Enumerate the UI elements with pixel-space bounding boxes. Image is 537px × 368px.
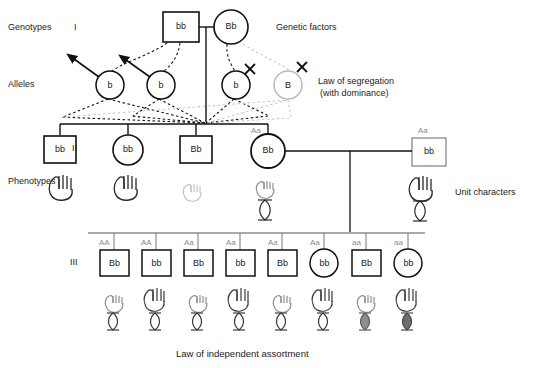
pedigree-diagram: Genotypes Alleles Phenotypes I II III Ge…	[0, 0, 537, 368]
hand-icon	[396, 288, 416, 311]
gamete-to-gen2-dotted	[60, 99, 291, 123]
hand-icon	[273, 295, 291, 312]
row-label-genotypes: Genotypes	[8, 22, 52, 33]
allele-b-2-label: b	[156, 80, 166, 91]
eye-icon	[258, 200, 272, 220]
hand-icon	[228, 288, 248, 311]
gen3-child-4-upper-genotype: Aa	[226, 237, 236, 248]
caption-law-of-independent-assortment: Law of independent assortment	[176, 348, 309, 359]
hand-icon	[114, 175, 137, 200]
gen1-mother-genotype: Bb	[221, 21, 241, 32]
hand-icon	[256, 181, 274, 198]
gen2-child-3-genotype: Bb	[186, 144, 206, 155]
allele-b-1-label: b	[105, 80, 115, 91]
hand-icon	[312, 288, 332, 311]
gamete-cross-marks	[245, 62, 307, 74]
gen1-father-genotype: bb	[171, 21, 191, 32]
allele-b-3-cross	[245, 64, 255, 74]
eye-icon	[191, 313, 203, 330]
row-label-phenotypes: Phenotypes	[8, 176, 56, 187]
generation-label-1: I	[74, 22, 77, 33]
gen3-child-7-upper-genotype: aa	[352, 237, 361, 248]
gen3-child-2-upper-genotype: AA	[141, 237, 152, 248]
hand-icon	[183, 184, 201, 201]
gen2-spouse-genotype: bb	[419, 146, 439, 157]
gen3-child-8-genotype: bb	[398, 258, 419, 269]
hand-icon	[409, 176, 432, 201]
pedigree-svg	[0, 0, 537, 368]
gen3-child-1-upper-genotype: AA	[99, 237, 110, 248]
gen3-phenotype-eyes	[107, 313, 413, 330]
gen3-child-1-genotype: Bb	[104, 258, 125, 269]
gen3-sibship	[88, 233, 425, 250]
annotation-law-of-segregation: Law of segregation	[318, 76, 394, 87]
eye-icon	[359, 313, 371, 330]
gen3-child-6-upper-genotype: Aa	[310, 237, 320, 248]
gen2-spouse-upper-genotype: Aa	[418, 125, 428, 136]
eye-icon	[413, 201, 427, 221]
hand-icon	[357, 295, 375, 312]
gen2-child-4-genotype: Bb	[258, 145, 278, 156]
gen3-child-4-genotype: bb	[230, 258, 251, 269]
gen2-child-2-genotype: bb	[118, 144, 138, 155]
row-label-alleles: Alleles	[8, 79, 35, 90]
gen2-child-4-upper-genotype: Aa	[251, 125, 261, 136]
eye-icon	[275, 313, 287, 330]
eye-icon	[233, 313, 245, 330]
annotation-genetic-factors: Genetic factors	[276, 22, 337, 33]
gen2-sibship	[60, 124, 268, 136]
gen2-symbols	[44, 134, 446, 232]
eye-icon	[317, 313, 329, 330]
gen3-child-6-genotype: bb	[314, 258, 335, 269]
allele-B-4-cross	[297, 62, 307, 72]
gen2-phenotype-hands	[49, 175, 432, 201]
allele-b-3-label: b	[231, 80, 241, 91]
allele-B-4-label: B	[283, 80, 293, 91]
gen2-phenotype-eyes	[258, 200, 427, 221]
gen3-phenotype-hands	[105, 288, 416, 312]
hand-icon	[105, 295, 123, 312]
eye-icon	[401, 313, 413, 330]
gen3-child-7-genotype: Bb	[356, 258, 377, 269]
eye-icon	[149, 313, 161, 330]
eye-icon	[107, 313, 119, 330]
gen3-child-3-genotype: Bb	[188, 258, 209, 269]
gen3-child-5-genotype: Bb	[272, 258, 293, 269]
gen3-child-8-upper-genotype: aa	[394, 237, 403, 248]
gen3-child-3-upper-genotype: Aa	[184, 237, 194, 248]
hand-icon	[144, 288, 164, 311]
allele-circles	[96, 71, 302, 99]
hand-icon	[189, 295, 207, 312]
gen3-child-2-genotype: bb	[146, 258, 167, 269]
allele-b-1-arrow	[74, 59, 99, 77]
allele-b-2-arrow	[126, 60, 150, 77]
gen2-child-1-genotype: bb	[50, 144, 70, 155]
gen3-child-5-upper-genotype: Aa	[268, 237, 278, 248]
parent-to-gamete-dotted	[112, 43, 289, 71]
annotation-unit-characters: Unit characters	[455, 187, 516, 198]
generation-label-3: III	[70, 257, 78, 268]
generation-label-2: II	[72, 143, 77, 154]
annotation-with-dominance: (with dominance)	[320, 88, 389, 99]
